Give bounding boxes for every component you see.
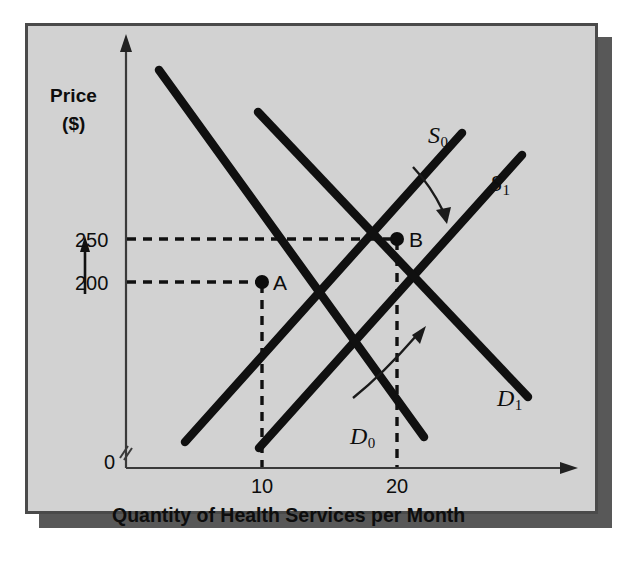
equilibrium-point-b-dot <box>390 232 404 246</box>
curve-d0 <box>159 70 424 437</box>
curve-label-d1-subscript: 1 <box>515 397 523 413</box>
x-tick-label-10: 10 <box>251 476 273 496</box>
figure-root: Price ($) 250 200 0 10 20 Quantity of He… <box>0 0 636 562</box>
curve-label-s0-subscript: 0 <box>441 134 449 150</box>
origin-label: 0 <box>104 452 115 472</box>
curve-label-d0-base: D <box>350 423 367 449</box>
demand-shift-arrow-head <box>412 326 426 344</box>
y-axis-arrowhead <box>120 34 132 52</box>
equilibrium-point-b-label: B <box>409 229 423 250</box>
supply-demand-chart <box>28 26 595 511</box>
curve-label-s1-subscript: 1 <box>503 182 511 198</box>
curve-label-d0: D0 <box>350 424 375 448</box>
curve-label-s1-base: S <box>490 170 502 196</box>
curve-d1 <box>258 112 528 397</box>
x-axis-caption: Quantity of Health Services per Month <box>112 506 465 526</box>
curve-label-d1: D1 <box>497 386 522 410</box>
equilibrium-point-a-label: A <box>273 272 287 293</box>
y-tick-label-250: 250 <box>75 230 108 250</box>
supply-shift-arrow-head <box>436 207 451 224</box>
x-tick-label-20: 20 <box>386 476 408 496</box>
x-axis-arrowhead <box>560 462 578 474</box>
y-axis-title-units: ($) <box>62 114 86 133</box>
y-axis-title-price: Price <box>50 86 97 105</box>
curve-label-s1: S1 <box>490 171 510 195</box>
curve-label-d0-subscript: 0 <box>368 435 376 451</box>
y-tick-label-200: 200 <box>75 273 108 293</box>
curve-label-s0: S0 <box>428 123 448 147</box>
equilibrium-point-a-dot <box>255 275 269 289</box>
figure-frame: Price ($) 250 200 0 10 20 Quantity of He… <box>25 23 598 514</box>
curve-label-s0-base: S <box>428 122 440 148</box>
curve-s1 <box>259 155 522 448</box>
curve-label-d1-base: D <box>497 385 514 411</box>
